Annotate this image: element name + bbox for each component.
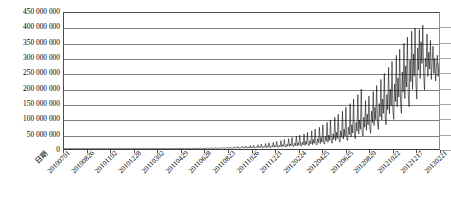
y-axis-tick-label: 250 000 000: [0, 69, 60, 76]
x-axis-tick-mark: [369, 150, 370, 153]
x-axis-tick-label: 20110823: [212, 150, 238, 176]
x-axis-tick-mark: [204, 150, 205, 153]
data-series-line: [64, 13, 439, 149]
x-axis-tick-label: 20111221: [259, 150, 284, 175]
gridline-extension: [440, 43, 451, 44]
gridline-extension: [440, 135, 451, 136]
x-axis-tick-mark: [416, 150, 417, 153]
x-axis: 日期20100701201008262010110220101228201103…: [0, 150, 451, 207]
x-axis-tick-label: 20121217: [400, 150, 426, 176]
y-axis-tick-label: 50 000 000: [0, 131, 60, 138]
gridline-extension: [440, 73, 451, 74]
x-axis-tick-mark: [110, 150, 111, 153]
y-axis-tick-label: 400 000 000: [0, 23, 60, 30]
gridline-extension: [440, 89, 451, 90]
x-axis-tick-mark: [252, 150, 253, 153]
x-axis-tick-label: 20120820: [353, 150, 379, 176]
x-axis-tick-label: 20120224: [282, 150, 308, 176]
x-axis-tick-mark: [228, 150, 229, 153]
x-axis-tick-label: 20120425: [306, 150, 332, 176]
gridline-extension: [440, 119, 451, 120]
x-axis-tick-mark: [157, 150, 158, 153]
x-axis-tick-label: 20110429: [165, 150, 191, 176]
x-axis-tick-label: 20110628: [188, 150, 214, 176]
x-axis-tick-mark: [275, 150, 276, 153]
x-axis-tick-label: 20120625: [329, 150, 355, 176]
y-axis-tick-label: 300 000 000: [0, 54, 60, 61]
x-axis-tick-mark: [299, 150, 300, 153]
gridline-extension: [440, 58, 451, 59]
x-axis-tick-label: 20101102: [94, 150, 120, 176]
x-axis-tick-label: 20100826: [70, 150, 96, 176]
x-axis-tick-mark: [346, 150, 347, 153]
x-axis-tick-mark: [181, 150, 182, 153]
x-axis-tick-label: 20110302: [141, 150, 167, 176]
x-axis-tick-mark: [87, 150, 88, 153]
x-axis-tick-mark: [134, 150, 135, 153]
gridline-extension: [440, 27, 451, 28]
x-axis-tick-label: 20100701: [47, 150, 73, 176]
x-axis-title: 日期: [34, 150, 49, 165]
x-axis-tick-mark: [322, 150, 323, 153]
y-axis-tick-label: 150 000 000: [0, 100, 60, 107]
x-axis-tick-label: 20111026: [236, 150, 261, 175]
y-axis-tick-label: 100 000 000: [0, 115, 60, 122]
chart-container: 450 000 000400 000 000350 000 000300 000…: [0, 0, 451, 207]
y-axis-tick-label: 200 000 000: [0, 85, 60, 92]
plot-area: [63, 12, 440, 150]
x-axis-tick-mark: [63, 150, 64, 153]
x-axis-tick-mark: [393, 150, 394, 153]
x-axis-tick-label: 20130221: [424, 150, 450, 176]
x-axis-tick-mark: [440, 150, 441, 153]
x-axis-tick-label: 20101228: [117, 150, 143, 176]
y-axis-tick-label: 350 000 000: [0, 39, 60, 46]
gridline-extension: [440, 104, 451, 105]
y-axis: 450 000 000400 000 000350 000 000300 000…: [0, 0, 60, 155]
x-axis-tick-label: 20121022: [377, 150, 403, 176]
y-axis-tick-label: 450 000 000: [0, 8, 60, 15]
